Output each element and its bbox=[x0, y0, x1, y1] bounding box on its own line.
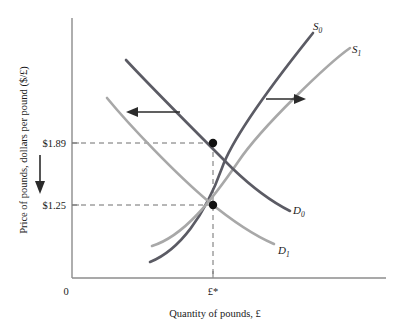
demand-shift-arrow-head bbox=[126, 107, 138, 117]
x-tick-label-qstar: £* bbox=[208, 286, 219, 297]
x-axis-title: Quantity of pounds, £ bbox=[169, 308, 261, 319]
supply-demand-figure: $1.89 $1.25 £* 0 Quantity of pounds, £ P… bbox=[0, 0, 399, 333]
equilibrium-dot-new bbox=[209, 201, 217, 209]
supply-shift-arrow-head bbox=[294, 94, 306, 104]
y-tick-label-high: $1.89 bbox=[42, 138, 66, 149]
origin-label: 0 bbox=[63, 286, 68, 297]
curve-d0 bbox=[126, 60, 290, 211]
curve-s0 bbox=[150, 33, 313, 262]
y-axis-title: Price of pounds, dollars per pound ($/£) bbox=[18, 66, 30, 234]
curve-s1 bbox=[152, 48, 350, 246]
chart-canvas: $1.89 $1.25 £* 0 Quantity of pounds, £ P… bbox=[0, 0, 399, 333]
curve-label-s0: S0 bbox=[313, 20, 323, 35]
curve-label-d1: D1 bbox=[277, 244, 290, 259]
curve-label-s1: S1 bbox=[352, 43, 361, 58]
curve-label-d0: D0 bbox=[292, 204, 305, 219]
price-decrease-arrow-head bbox=[35, 181, 45, 194]
y-tick-label-low: $1.25 bbox=[42, 200, 66, 211]
equilibrium-dot-initial bbox=[209, 139, 217, 147]
